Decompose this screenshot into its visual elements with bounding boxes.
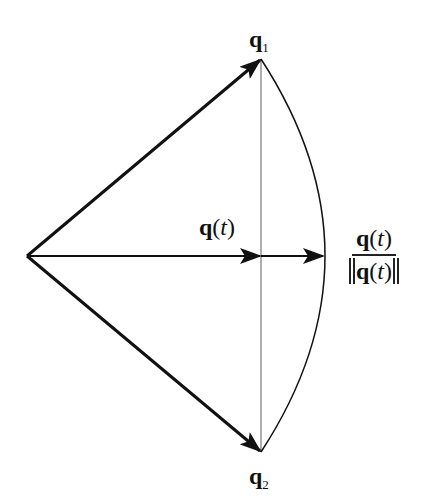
label-q1: q1	[249, 27, 269, 51]
q2-subscript: 2	[262, 477, 269, 492]
fraction-denominator: q(t)	[349, 256, 399, 285]
fraction-numerator: q(t)	[352, 225, 396, 256]
vector-q2	[27, 256, 260, 451]
label-q2: q2	[249, 464, 269, 488]
label-qt: q(t)	[199, 215, 235, 239]
label-normalized-fraction: q(t) q(t)	[349, 225, 399, 285]
q1-subscript: 1	[262, 40, 269, 55]
q2-base: q	[249, 463, 262, 489]
norm-bars: q(t)	[349, 258, 399, 284]
q1-base: q	[249, 26, 262, 52]
